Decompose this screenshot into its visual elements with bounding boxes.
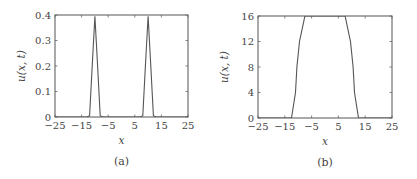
y-axis-label: u(x, t) <box>15 50 27 82</box>
y-tick-label: 0.2 <box>35 61 51 72</box>
x-tick-label: 15 <box>155 120 168 131</box>
figure-canvas: −25−15−55152500.10.20.30.4xu(x, t)(a)−25… <box>0 0 417 179</box>
x-tick-label: 15 <box>359 121 372 132</box>
chart-panel-a: −25−15−55152500.10.20.30.4xu(x, t)(a) <box>15 10 194 169</box>
x-tick-label: 25 <box>386 121 399 132</box>
y-tick-label: 0 <box>45 112 51 123</box>
y-tick-label: 0.4 <box>35 10 51 21</box>
x-axis-label: x <box>322 135 328 147</box>
y-tick-label: 16 <box>241 11 254 22</box>
data-line <box>258 16 392 118</box>
y-tick-label: 12 <box>241 36 254 47</box>
x-tick-label: 5 <box>132 120 138 131</box>
x-tick-label: 25 <box>182 120 195 131</box>
x-tick-label: −5 <box>304 121 319 132</box>
y-tick-label: 0.1 <box>35 86 51 97</box>
y-axis-label: u(x, t) <box>218 51 230 83</box>
y-tick-label: 0 <box>248 113 254 124</box>
panel-caption: (a) <box>114 155 129 168</box>
x-tick-label: −5 <box>101 120 116 131</box>
y-tick-label: 4 <box>248 87 254 98</box>
plot-frame <box>55 15 188 117</box>
x-axis-label: x <box>119 134 125 146</box>
data-line <box>55 16 188 117</box>
y-tick-label: 0.3 <box>35 35 51 46</box>
y-tick-label: 8 <box>248 62 254 73</box>
x-tick-label: 5 <box>335 121 341 132</box>
plot-frame <box>258 16 392 118</box>
panel-caption: (b) <box>317 156 333 169</box>
x-tick-label: −15 <box>71 120 92 131</box>
chart-panel-b: −25−15−5515250481216xu(x, t)(b) <box>218 11 398 170</box>
x-tick-label: −15 <box>274 121 295 132</box>
